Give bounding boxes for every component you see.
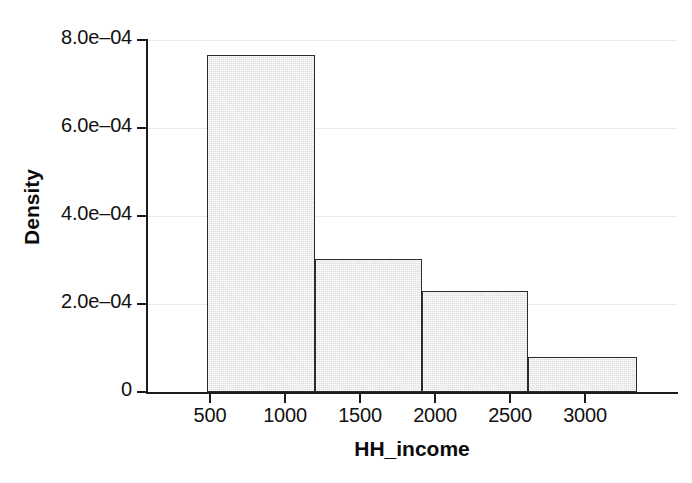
histogram-figure: 8.0e–04 6.0e–04 4.0e–04 2.0e–04 0 500 10… — [0, 0, 692, 483]
y-axis-title: Density — [20, 127, 44, 287]
y-axis-tick — [137, 39, 146, 41]
x-axis-tick — [209, 394, 211, 403]
x-axis-tick — [434, 394, 436, 403]
x-axis-line — [146, 392, 678, 394]
x-axis-tick-label: 2000 — [413, 404, 457, 427]
plot-area — [147, 40, 677, 392]
histogram-bar — [528, 357, 637, 392]
y-axis-tick — [137, 215, 146, 217]
y-axis-tick-label: 8.0e–04 — [61, 26, 132, 49]
x-axis-tick-label: 2500 — [488, 404, 532, 427]
gridline-8e-04 — [147, 40, 677, 41]
x-axis-tick-label: 1000 — [263, 404, 307, 427]
y-axis-line — [146, 39, 148, 394]
x-axis-tick-label: 3000 — [563, 404, 607, 427]
x-axis-tick — [509, 394, 511, 403]
x-axis-tick — [284, 394, 286, 403]
x-axis-tick — [359, 394, 361, 403]
x-axis-tick — [584, 394, 586, 403]
y-axis-tick-label: 2.0e–04 — [61, 290, 132, 313]
y-axis-tick — [137, 127, 146, 129]
y-axis-tick — [137, 391, 146, 393]
x-axis-tick-label: 500 — [194, 404, 227, 427]
y-axis-tick — [137, 303, 146, 305]
histogram-bar — [315, 259, 422, 392]
x-axis-tick-label: 1500 — [338, 404, 382, 427]
y-axis-tick-label: 4.0e–04 — [61, 202, 132, 225]
histogram-bar — [207, 55, 314, 392]
x-axis-title: HH_income — [147, 437, 677, 461]
y-axis-tick-label: 6.0e–04 — [61, 114, 132, 137]
histogram-bar — [422, 291, 528, 392]
y-axis-tick-label: 0 — [121, 378, 132, 401]
